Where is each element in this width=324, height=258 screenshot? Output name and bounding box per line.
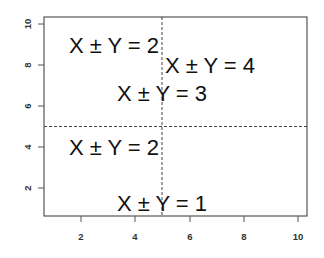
x-tick-label: 4 [132,231,138,242]
y-tick-label: 10 [22,19,33,30]
annotation-label: X ± Y = 1 [117,191,207,216]
x-axis [81,216,298,222]
y-axis [38,24,44,188]
y-tick-label: 6 [22,103,33,108]
x-tick-label: 2 [78,231,83,242]
annotation-label: X ± Y = 2 [69,135,159,160]
y-tick-label: 4 [22,144,33,150]
x-tick-label: 8 [241,231,246,242]
annotation-label: X ± Y = 2 [69,33,159,58]
x-tick-label: 10 [293,231,304,242]
x-tick-label: 6 [187,231,192,242]
y-tick-label: 8 [22,62,33,67]
chart: 2 4 6 8 10 2 4 6 8 10 X ± Y = 2 X ± Y = … [0,0,324,258]
y-tick-label: 2 [22,185,33,190]
annotation-label: X ± Y = 3 [117,81,207,106]
annotation-label: X ± Y = 4 [165,53,255,78]
